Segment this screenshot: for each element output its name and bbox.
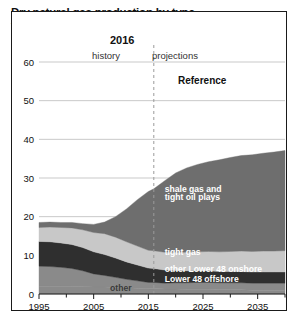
y-axis-tick-label: 10 bbox=[23, 250, 34, 261]
y-axis-tick-label: 0 bbox=[29, 289, 34, 300]
x-axis-tick-label: 2025 bbox=[192, 301, 213, 311]
history-label: history bbox=[92, 50, 120, 61]
chart-plot-frame: 010203040506019952005201520252035shale g… bbox=[11, 11, 287, 311]
x-axis-tick-label: 2015 bbox=[138, 301, 159, 311]
stacked-area-chart: 010203040506019952005201520252035shale g… bbox=[12, 12, 287, 311]
reference-case-label: Reference bbox=[178, 75, 226, 86]
projections-label: projections bbox=[152, 50, 198, 61]
series-annotation: tight gas bbox=[165, 247, 201, 257]
series-annotation: Lower 48 offshore bbox=[165, 274, 239, 284]
series-annotation: other bbox=[110, 283, 132, 293]
series-annotation: tight oil plays bbox=[165, 192, 221, 202]
y-axis-tick-label: 60 bbox=[23, 57, 34, 68]
y-axis-tick-label: 30 bbox=[23, 173, 34, 184]
x-axis-tick-label: 2005 bbox=[83, 301, 104, 311]
y-axis-tick-label: 20 bbox=[23, 211, 34, 222]
y-axis-tick-label: 50 bbox=[23, 95, 34, 106]
x-axis-tick-label: 2035 bbox=[247, 301, 268, 311]
x-axis-tick-label: 1995 bbox=[28, 301, 49, 311]
divider-year-label: 2016 bbox=[110, 34, 134, 46]
y-axis-tick-label: 40 bbox=[23, 134, 34, 145]
series-annotation: other Lower 48 onshore bbox=[165, 264, 263, 274]
